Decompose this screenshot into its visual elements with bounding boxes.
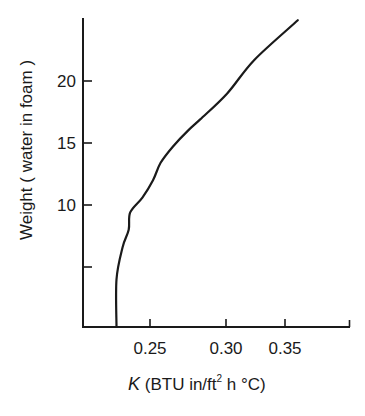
x-ticks: 0.250.300.35 <box>133 319 301 358</box>
axes <box>82 18 350 328</box>
y-ticks: 101520 <box>57 72 92 267</box>
x-axis-title: K (BTU in/ft2 h °C) <box>128 373 266 395</box>
x-axis-units-post: h °C) <box>222 375 266 394</box>
x-tick-label: 0.30 <box>209 339 242 358</box>
y-tick-label: 10 <box>57 196 76 215</box>
y-tick-label: 15 <box>57 134 76 153</box>
chart: 0.250.300.35 101520 Weight ( water in fo… <box>0 0 365 416</box>
y-tick-label: 20 <box>57 72 76 91</box>
x-axis-units-pre: (BTU in/ft <box>145 375 217 394</box>
x-tick-label: 0.35 <box>268 339 301 358</box>
x-axis-symbol: K <box>128 374 140 394</box>
x-tick-label: 0.25 <box>133 339 166 358</box>
y-axis-title: Weight ( water in foam ) <box>17 60 36 240</box>
data-curve <box>116 20 298 327</box>
